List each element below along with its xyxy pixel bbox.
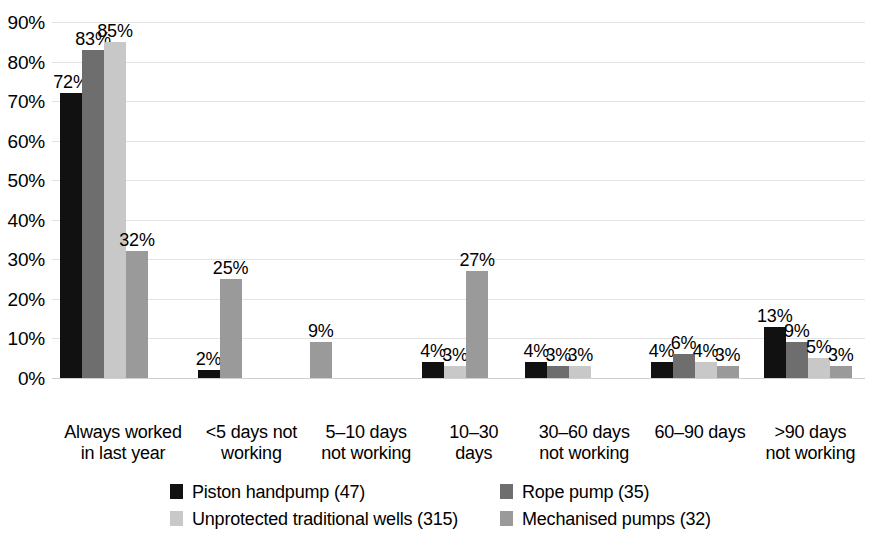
bar[interactable]: 4% — [422, 362, 444, 378]
bar-chart: 0%10%20%30%40%50%60%70%80%90% 72%83%85%3… — [0, 0, 869, 535]
legend-label: Piston handpump (47) — [192, 483, 365, 501]
bar-group: 72%83%85%32% — [52, 0, 192, 415]
plot-wrapper: 0%10%20%30%40%50%60%70%80%90% 72%83%85%3… — [0, 0, 869, 415]
x-axis-category-label: <5 days notworking — [194, 418, 309, 474]
legend-swatch-icon — [170, 511, 183, 526]
x-axis-category-line: not working — [524, 443, 644, 464]
x-axis-category-line: days — [424, 443, 525, 464]
x-axis-category-line: not working — [756, 443, 865, 464]
bar-groups: 72%83%85%32%2%25%9%4%3%27%4%3%3%4%6%4%3%… — [52, 0, 865, 415]
bar[interactable]: 2% — [198, 370, 220, 378]
bar[interactable]: 5% — [808, 358, 830, 378]
bar-value-label: 9% — [308, 322, 334, 340]
bar-slot: 32% — [126, 0, 148, 415]
bar-value-label: 3% — [715, 346, 741, 364]
x-axis-category-line: 10–30 — [424, 422, 525, 443]
plot-area: 72%83%85%32%2%25%9%4%3%27%4%3%3%4%6%4%3%… — [52, 0, 865, 415]
bar-slot: 13% — [764, 0, 786, 415]
bar-slot: 85% — [104, 0, 126, 415]
bar-slot: 9% — [786, 0, 808, 415]
bar-group: 9% — [304, 0, 416, 415]
bar[interactable]: 13% — [764, 327, 786, 378]
bar-slot: 83% — [82, 0, 104, 415]
x-axis-category-line: 60–90 days — [644, 422, 755, 443]
x-axis-category-label: 10–30days — [424, 418, 525, 474]
bar[interactable]: 72% — [60, 93, 82, 378]
bar[interactable]: 27% — [466, 271, 488, 378]
chart-legend: Piston handpump (47)Rope pump (35)Unprot… — [0, 478, 869, 535]
x-axis-category-label: >90 daysnot working — [756, 418, 865, 474]
y-axis-tick-label: 50% — [8, 171, 45, 190]
bar-slot: 3% — [569, 0, 591, 415]
y-axis-tick-label: 60% — [8, 131, 45, 150]
y-axis-tick-label: 70% — [8, 92, 45, 111]
legend-item[interactable]: Unprotected traditional wells (315) — [170, 505, 500, 532]
x-axis-category-label: 5–10 daysnot working — [309, 418, 424, 474]
bar-group: 2%25% — [192, 0, 304, 415]
x-axis-category-line: in last year — [52, 443, 194, 464]
x-axis-category-line: Always worked — [52, 422, 194, 443]
y-axis-tick-label: 80% — [8, 52, 45, 71]
bar-slot: 4% — [651, 0, 673, 415]
legend-item[interactable]: Piston handpump (47) — [170, 478, 500, 505]
legend-swatch-icon — [500, 511, 513, 526]
bar-group: 4%3%3% — [515, 0, 636, 415]
bar[interactable]: 3% — [830, 366, 852, 378]
y-axis: 0%10%20%30%40%50%60%70%80%90% — [0, 0, 48, 415]
bar-slot: 5% — [808, 0, 830, 415]
bar-slot: 3% — [547, 0, 569, 415]
legend-item[interactable]: Rope pump (35) — [500, 478, 820, 505]
bar[interactable]: 9% — [786, 342, 808, 378]
x-axis: Always workedin last year<5 days notwork… — [52, 418, 865, 474]
y-axis-tick-label: 10% — [8, 329, 45, 348]
bar-slot: 25% — [220, 0, 242, 415]
bar-slot: 72% — [60, 0, 82, 415]
x-axis-category-line: >90 days — [756, 422, 865, 443]
legend-label: Mechanised pumps (32) — [522, 510, 711, 528]
bar-slot: 4% — [422, 0, 444, 415]
bar[interactable]: 3% — [569, 366, 591, 378]
bar-value-label: 3% — [442, 346, 468, 364]
bar[interactable]: 25% — [220, 279, 242, 378]
bar-slot: 27% — [466, 0, 488, 415]
bar[interactable]: 6% — [673, 354, 695, 378]
y-axis-tick-label: 0% — [18, 369, 45, 388]
x-axis-category-line: 5–10 days — [309, 422, 424, 443]
x-axis-category-label: Always workedin last year — [52, 418, 194, 474]
x-axis-category-line: working — [194, 443, 309, 464]
bar-slot: 3% — [830, 0, 852, 415]
bar-slot: 6% — [673, 0, 695, 415]
bar[interactable]: 83% — [82, 50, 104, 378]
x-axis-category-label: 30–60 daysnot working — [524, 418, 644, 474]
bar-group: 4%3%27% — [416, 0, 515, 415]
bar[interactable]: 4% — [651, 362, 673, 378]
bar[interactable]: 3% — [547, 366, 569, 378]
x-axis-category-line: not working — [309, 443, 424, 464]
bar-value-label: 25% — [213, 259, 248, 277]
bar[interactable]: 85% — [104, 42, 126, 378]
legend-item[interactable]: Mechanised pumps (32) — [500, 505, 820, 532]
bar-slot: 9% — [310, 0, 332, 415]
bar[interactable]: 4% — [525, 362, 547, 378]
bar-slot: 4% — [525, 0, 547, 415]
x-axis-category-line: 30–60 days — [524, 422, 644, 443]
bar[interactable]: 3% — [717, 366, 739, 378]
bar[interactable]: 3% — [444, 366, 466, 378]
bar[interactable]: 9% — [310, 342, 332, 378]
bar-value-label: 27% — [459, 251, 494, 269]
x-axis-category-label: 60–90 days — [644, 418, 755, 474]
bar[interactable]: 4% — [695, 362, 717, 378]
legend-swatch-icon — [170, 484, 183, 499]
legend-swatch-icon — [500, 484, 513, 499]
x-axis-category-line: <5 days not — [194, 422, 309, 443]
y-axis-tick-label: 30% — [8, 250, 45, 269]
bar-value-label: 3% — [828, 346, 854, 364]
bar-slot: 4% — [695, 0, 717, 415]
bar-group: 4%6%4%3% — [637, 0, 754, 415]
bar-value-label: 32% — [119, 231, 154, 249]
bar[interactable]: 32% — [126, 251, 148, 378]
bar-group: 13%9%5%3% — [754, 0, 865, 415]
y-axis-tick-label: 20% — [8, 289, 45, 308]
legend-label: Rope pump (35) — [522, 483, 649, 501]
bar-slot: 3% — [444, 0, 466, 415]
